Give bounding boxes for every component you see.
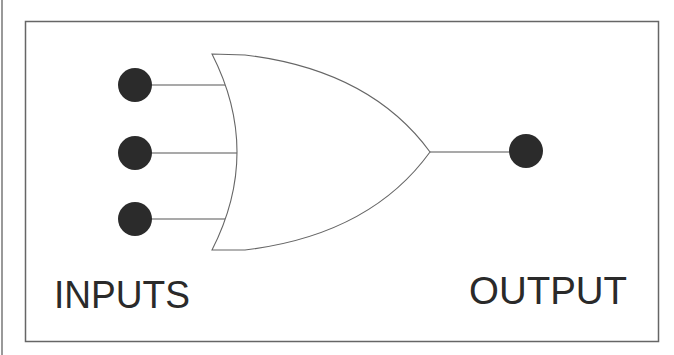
inputs-label: INPUTS (54, 274, 190, 316)
input-terminal-3 (118, 202, 152, 236)
input-terminal-2 (118, 136, 152, 170)
input-terminal-1 (118, 68, 152, 102)
or-gate-diagram: INPUTS OUTPUT (0, 0, 674, 355)
or-gate-symbol (212, 54, 430, 250)
output-label: OUTPUT (469, 270, 627, 312)
output-terminal (509, 134, 543, 168)
